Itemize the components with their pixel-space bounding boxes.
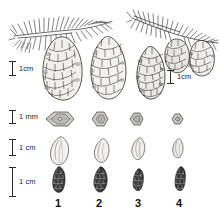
branch-with-two-cones-4: [128, 4, 219, 80]
scale-bar-row-seed: 1 cm: [9, 139, 36, 156]
immature-cone-3: [130, 168, 147, 192]
winged-seed-3: [130, 137, 148, 162]
scale-bar-cone-right: 1cm: [167, 70, 191, 84]
immature-cone-1: [49, 166, 69, 194]
column-number-4: 4: [171, 198, 187, 209]
cone-scale-specimen-3: [128, 111, 145, 127]
immature-cone-2: [91, 166, 111, 194]
scale-bar-glyph: [9, 110, 16, 124]
scale-bar-row-young: 1 cm: [9, 167, 36, 197]
scale-bar-label-mm: 1 mm: [19, 113, 38, 121]
scale-bar-glyph: [9, 139, 16, 156]
scale-bar-label-young: 1 cm: [19, 178, 36, 186]
scale-bar-cone-left: 1cm: [9, 61, 33, 76]
scale-bar-label-cone-left: 1cm: [19, 65, 33, 73]
scale-bar-glyph: [167, 70, 174, 84]
scale-bar-label-seed: 1 cm: [19, 144, 36, 152]
winged-seed-1: [48, 136, 72, 166]
mature-cone-2: [84, 35, 134, 103]
scale-bar-glyph: [9, 167, 16, 197]
winged-seed-4: [171, 138, 186, 160]
column-number-2: 2: [91, 198, 107, 209]
scale-bar-row-mm: 1 mm: [9, 110, 38, 124]
column-number-3: 3: [130, 198, 146, 209]
scale-bar-glyph: [9, 61, 16, 76]
cone-scale-specimen-4: [170, 112, 185, 126]
cone-scale-specimen-1: [44, 110, 76, 128]
scale-bar-label-cone-right: 1cm: [177, 73, 191, 81]
cone-scale-specimen-2: [90, 110, 110, 128]
immature-cone-4: [171, 166, 189, 192]
winged-seed-2: [92, 138, 112, 164]
column-number-1: 1: [50, 198, 66, 209]
botanical-plate: 1cm 1cm 1 mm: [0, 0, 219, 217]
